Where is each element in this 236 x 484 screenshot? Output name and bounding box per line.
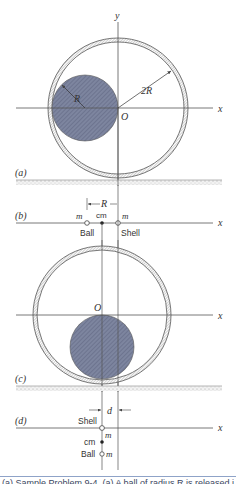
ball-label: Ball — [81, 449, 95, 459]
panel-c: x O (c) — [15, 240, 223, 392]
origin-label: O — [121, 111, 128, 122]
cm-point — [100, 440, 104, 444]
panel-label-b: (b) — [15, 210, 27, 222]
shell-point — [100, 426, 105, 431]
shell-radius-label: 2R — [141, 85, 152, 96]
shell-label: Shell — [78, 416, 97, 426]
ball-radius-label: R — [73, 93, 80, 104]
ball-in-shell-diagram: R 2R O x y (a) x (b) R m cm m Ball Shell — [0, 0, 236, 484]
ball-point — [100, 452, 104, 456]
x-axis-label: x — [217, 310, 223, 321]
ground — [16, 180, 222, 185]
ball-mass-label: m — [106, 449, 113, 459]
x-axis-label: x — [217, 103, 223, 114]
distance-label: R — [100, 198, 107, 209]
panel-b: x (b) R m cm m Ball Shell — [15, 198, 223, 238]
panel-d: d x (d) Shell m cm Ball m — [15, 405, 223, 459]
ball-point — [85, 221, 90, 226]
distance-label: d — [107, 405, 113, 416]
ball-mass-label: m — [76, 211, 83, 221]
cm-label: cm — [84, 437, 95, 447]
panel-label-d: (d) — [15, 415, 27, 427]
panel-label-a: (a) — [15, 167, 27, 179]
shell-label: Shell — [121, 228, 140, 238]
y-axis-label: y — [114, 10, 120, 21]
shell-mass-label: m — [105, 430, 112, 440]
ground — [16, 386, 222, 391]
figure-caption: (a) Sample Problem 9-4. (a) A ball of ra… — [2, 479, 234, 484]
panel-a: R 2R O x y (a) — [15, 10, 223, 186]
panel-label-c: (c) — [15, 373, 27, 385]
x-axis-label: x — [217, 422, 223, 433]
ball-label: Ball — [80, 228, 94, 238]
origin-label: O — [94, 302, 101, 313]
shell-mass-label: m — [122, 211, 129, 221]
x-axis-label: x — [217, 217, 223, 228]
cm-label: cm — [96, 211, 107, 220]
caption-divider — [0, 476, 236, 477]
